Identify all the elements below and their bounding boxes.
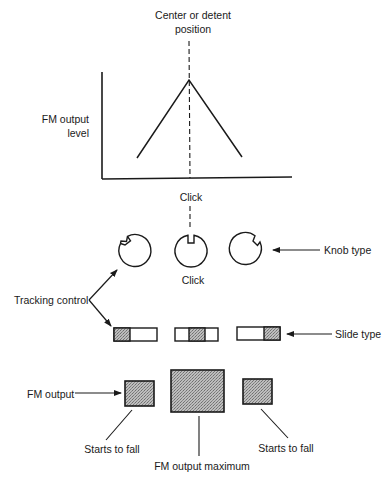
tracking-arrow-knob bbox=[89, 270, 117, 300]
starts-to-fall-right-label: Starts to fall bbox=[258, 442, 313, 454]
slider-left bbox=[114, 328, 157, 341]
tracking-arrow-slide bbox=[89, 300, 111, 326]
fm-box-right bbox=[243, 379, 272, 404]
leader-right bbox=[261, 409, 288, 438]
slider-right-thumb bbox=[264, 327, 280, 340]
slider-right bbox=[237, 327, 280, 340]
center-detent-label: Center or detent bbox=[155, 9, 231, 21]
fm-box-left bbox=[125, 381, 154, 406]
tracking-control-label: Tracking control bbox=[14, 294, 88, 306]
knob-right bbox=[229, 232, 261, 264]
fm-output-label: FM output bbox=[27, 388, 74, 400]
click-label-top: Click bbox=[180, 191, 203, 203]
knob-type-label: Knob type bbox=[324, 244, 371, 256]
slider-center bbox=[175, 328, 218, 341]
starts-to-fall-left-label: Starts to fall bbox=[84, 443, 139, 455]
leader-left bbox=[106, 410, 132, 440]
fm-output-maximum-label: FM output maximum bbox=[154, 460, 250, 472]
knob-left bbox=[119, 234, 151, 266]
y-axis-label-line2: level bbox=[67, 127, 89, 139]
slider-center-thumb bbox=[189, 328, 205, 341]
x-axis bbox=[102, 177, 292, 179]
detent-dashed-line bbox=[189, 41, 190, 178]
slider-left-thumb bbox=[114, 328, 130, 341]
knob-right-icon bbox=[229, 232, 261, 264]
knob-center bbox=[175, 235, 207, 267]
slide-type-label: Slide type bbox=[335, 328, 381, 340]
diagram-canvas: Center or detent position FM output leve… bbox=[0, 0, 392, 483]
click-label-knob: Click bbox=[182, 274, 205, 286]
fm-box-center bbox=[171, 370, 224, 412]
y-axis-label: FM output bbox=[42, 113, 89, 125]
knob-center-icon bbox=[175, 235, 207, 267]
center-detent-label-line2: position bbox=[175, 23, 211, 35]
knob-left-icon bbox=[119, 234, 151, 266]
